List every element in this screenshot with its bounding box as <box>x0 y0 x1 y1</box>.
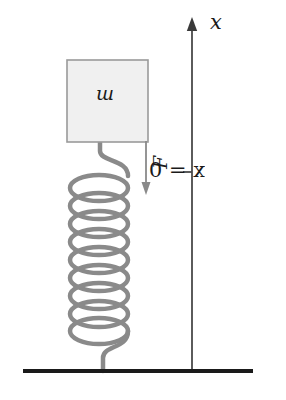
helical-spring <box>70 139 128 371</box>
x-axis-label: x <box>210 12 222 33</box>
origin-label: x = 0 <box>149 160 205 181</box>
force-arrow-head <box>142 182 151 195</box>
spring-coils <box>70 175 128 344</box>
x-axis <box>183 17 197 371</box>
figure-canvas: m F x x = 0 <box>0 0 286 400</box>
mass-label: m <box>96 87 114 106</box>
spring-coil <box>70 318 128 344</box>
spring-top-lead <box>100 139 128 176</box>
mass-spring-diagram <box>0 0 286 400</box>
x-axis-arrowhead <box>187 17 197 31</box>
